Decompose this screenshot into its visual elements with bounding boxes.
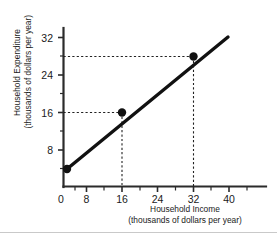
bottom-divider [0,232,277,233]
x-axis-title-units: (thousands of dollars per year) [96,215,274,226]
y-tick-label-16: 16 [41,107,53,119]
y-tick-label-32: 32 [41,32,53,44]
y-axis-title-units: (thousands of dollars per year) [22,17,33,129]
data-point-1 [63,165,71,173]
x-axis-title-main: Household Income [96,204,274,215]
y-tick-label-24: 24 [41,69,53,81]
x-axis-title: Household Income (thousands of dollars p… [96,204,274,225]
y-axis-title: Household Expenditure (thousands of doll… [12,17,33,129]
x-tick-label-0: 0 [58,193,64,205]
data-point-2 [118,108,126,116]
chart-plot-area: 32 24 16 8 0 8 16 24 32 40 [0,0,277,236]
data-point-3 [189,52,197,60]
y-tick-label-8: 8 [47,144,53,156]
chart-figure: 32 24 16 8 0 8 16 24 32 40 Household Exp… [0,0,277,236]
y-axis-title-main: Household Expenditure [12,17,23,129]
x-tick-label-8: 8 [84,193,90,205]
